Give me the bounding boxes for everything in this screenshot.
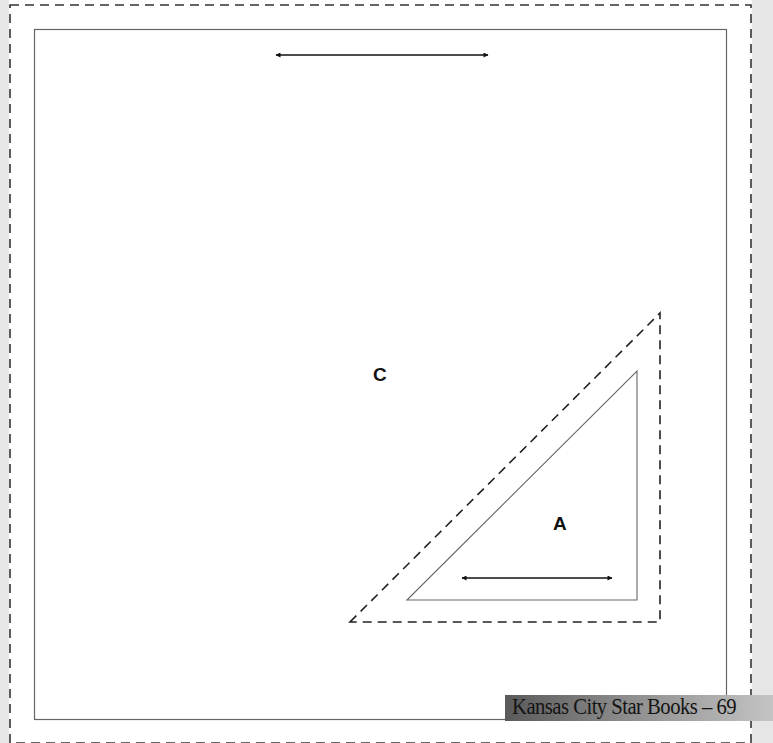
piece-a-sewing-line (407, 371, 637, 600)
piece-a-label: A (553, 513, 567, 535)
footer-text: Kansas City Star Books – 69 (512, 693, 736, 720)
piece-a-cutting-line (350, 313, 660, 622)
piece-c-label: C (373, 364, 387, 386)
